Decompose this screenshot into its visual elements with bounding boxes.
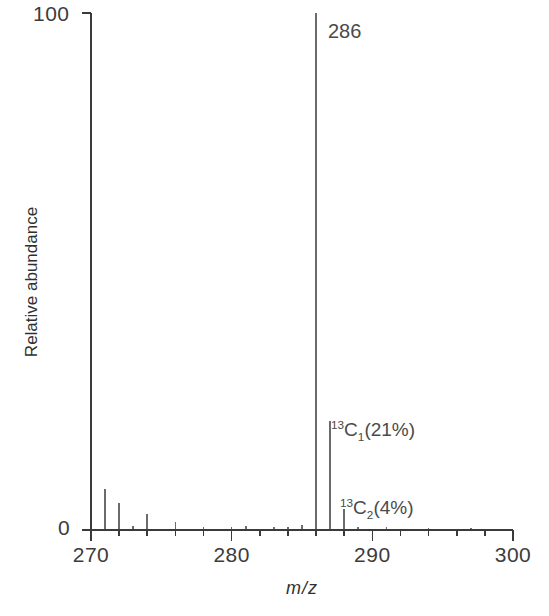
base-peak-annotation: 286 [328,20,361,43]
x-axis-title: m/z [91,578,513,599]
x-axis-tick-label-300: 300 [495,543,532,567]
c1-isotope-annotation: 13C1(21%) [331,418,415,443]
c2-isotope-annotation: 13C2(4%) [340,496,414,521]
c2-element: C [353,497,367,518]
peak-lines-group [91,13,471,530]
x-axis-tick-label-280: 280 [213,543,250,567]
mass-spectrum-figure: 100 0 270280290300 Relative abundance m/… [0,0,549,616]
axes-group [82,13,513,541]
c1-element: C [344,419,358,440]
y-axis-tick-label-100: 100 [33,2,70,26]
c1-superscript: 13 [331,418,344,431]
c2-superscript: 13 [340,496,353,509]
c2-percent: (4%) [373,497,413,518]
y-axis-title: Relative abundance [22,182,42,382]
x-axis-tick-label-270: 270 [73,543,110,567]
y-axis-tick-label-0: 0 [58,516,70,540]
x-axis-tick-label-290: 290 [354,543,391,567]
c1-percent: (21%) [364,419,415,440]
spectrum-plot-canvas [0,0,549,616]
